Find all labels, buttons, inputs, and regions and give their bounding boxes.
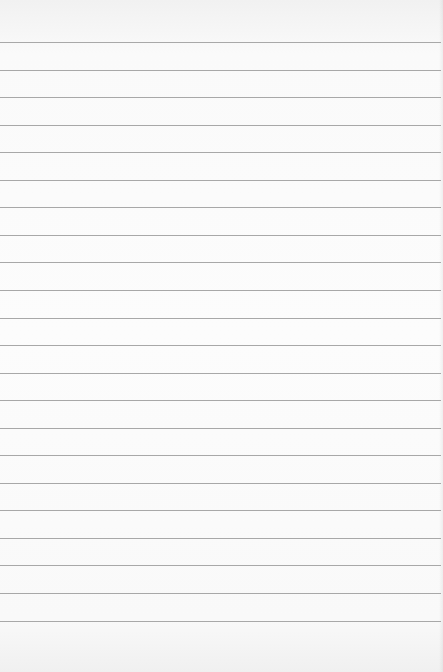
ruled-line <box>0 42 441 43</box>
ruled-line <box>0 125 441 126</box>
ruled-line <box>0 318 441 319</box>
ruled-line <box>0 400 441 401</box>
ruled-line <box>0 593 441 594</box>
paper-edge-shadow <box>439 0 443 672</box>
ruled-line <box>0 345 441 346</box>
ruled-line <box>0 565 441 566</box>
ruled-line <box>0 428 441 429</box>
ruled-line <box>0 621 441 622</box>
ruled-line <box>0 538 441 539</box>
ruled-line <box>0 510 441 511</box>
ruled-line <box>0 262 441 263</box>
ruled-line <box>0 152 441 153</box>
ruled-line <box>0 180 441 181</box>
ruled-line <box>0 207 441 208</box>
ruled-line <box>0 235 441 236</box>
ruled-line <box>0 373 441 374</box>
ruled-line <box>0 483 441 484</box>
lined-paper <box>0 0 443 672</box>
ruled-line <box>0 290 441 291</box>
ruled-line <box>0 97 441 98</box>
ruled-line <box>0 455 441 456</box>
ruled-line <box>0 70 441 71</box>
